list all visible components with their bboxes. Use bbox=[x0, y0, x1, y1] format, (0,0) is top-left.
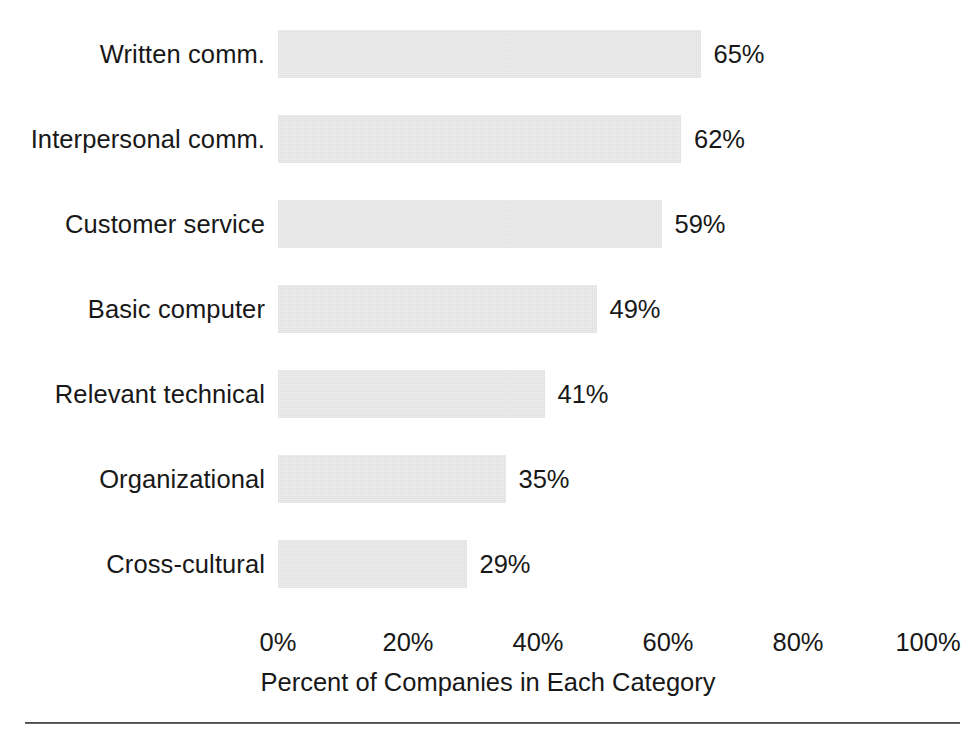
category-label: Relevant technical bbox=[0, 370, 265, 418]
bar-row: Basic computer49% bbox=[0, 285, 976, 333]
bar-fill bbox=[278, 540, 467, 588]
bar-fill bbox=[278, 455, 506, 503]
bar-fill bbox=[278, 200, 662, 248]
bar-track bbox=[278, 115, 681, 163]
bottom-divider bbox=[25, 722, 960, 724]
x-axis: 0%20%40%60%80%100% bbox=[0, 624, 976, 664]
x-tick-label: 60% bbox=[642, 624, 693, 660]
x-tick-label: 80% bbox=[772, 624, 823, 660]
x-tick-label: 20% bbox=[382, 624, 433, 660]
bar-fill bbox=[278, 115, 681, 163]
bar-track bbox=[278, 540, 467, 588]
x-tick-label: 0% bbox=[260, 624, 297, 660]
x-tick-label: 100% bbox=[895, 624, 960, 660]
x-tick-label: 40% bbox=[512, 624, 563, 660]
bar-chart: Written comm.65%Interpersonal comm.62%Cu… bbox=[0, 0, 976, 740]
bar-row: Cross-cultural29% bbox=[0, 540, 976, 588]
category-label: Basic computer bbox=[0, 285, 265, 333]
bar-track bbox=[278, 30, 701, 78]
category-label: Interpersonal comm. bbox=[0, 115, 265, 163]
bar-fill bbox=[278, 285, 597, 333]
bar-row: Customer service59% bbox=[0, 200, 976, 248]
bar-value-label: 41% bbox=[558, 370, 609, 418]
plot-area: Written comm.65%Interpersonal comm.62%Cu… bbox=[0, 0, 976, 620]
bar-value-label: 59% bbox=[675, 200, 726, 248]
category-label: Written comm. bbox=[0, 30, 265, 78]
category-label: Customer service bbox=[0, 200, 265, 248]
bar-value-label: 29% bbox=[480, 540, 531, 588]
bar-track bbox=[278, 455, 506, 503]
bar-fill bbox=[278, 30, 701, 78]
category-label: Cross-cultural bbox=[0, 540, 265, 588]
bar-value-label: 65% bbox=[714, 30, 765, 78]
bar-fill bbox=[278, 370, 545, 418]
bar-row: Organizational35% bbox=[0, 455, 976, 503]
bar-track bbox=[278, 285, 597, 333]
x-axis-title: Percent of Companies in Each Category bbox=[0, 668, 976, 697]
bar-value-label: 62% bbox=[694, 115, 745, 163]
bar-row: Interpersonal comm.62% bbox=[0, 115, 976, 163]
bar-track bbox=[278, 370, 545, 418]
bar-track bbox=[278, 200, 662, 248]
bar-value-label: 49% bbox=[610, 285, 661, 333]
bar-value-label: 35% bbox=[519, 455, 570, 503]
category-label: Organizational bbox=[0, 455, 265, 503]
bar-row: Relevant technical41% bbox=[0, 370, 976, 418]
bar-row: Written comm.65% bbox=[0, 30, 976, 78]
